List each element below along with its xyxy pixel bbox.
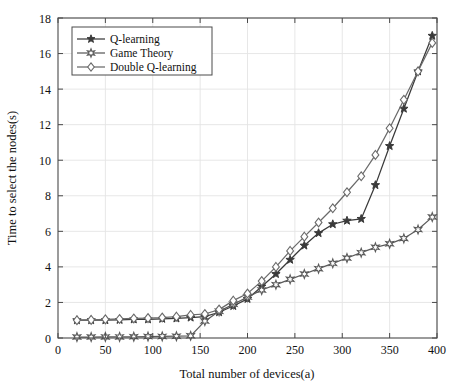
y-tick-label: 12: [39, 118, 51, 132]
x-tick-label: 250: [286, 343, 304, 357]
legend-label-1: Game Theory: [110, 47, 174, 60]
chart-figure: 050100150200250300350400024681012141618 …: [0, 0, 460, 388]
chart-legend: Q-learningGame TheoryDouble Q-learning: [72, 27, 212, 75]
x-axis-label: Total number of devices(a): [180, 367, 315, 381]
x-tick-label: 350: [381, 343, 399, 357]
legend-label-0: Q-learning: [110, 33, 160, 46]
x-tick-label: 400: [428, 343, 446, 357]
x-tick-label: 50: [99, 343, 111, 357]
x-tick-label: 300: [333, 343, 351, 357]
y-axis-label: Time to select the nodes(s): [5, 111, 19, 245]
y-tick-label: 10: [39, 154, 51, 168]
y-tick-label: 0: [45, 332, 51, 346]
y-tick-label: 18: [39, 12, 51, 26]
chart-svg: 050100150200250300350400024681012141618 …: [0, 0, 460, 388]
y-tick-label: 14: [39, 83, 51, 97]
y-tick-label: 2: [45, 296, 51, 310]
x-tick-label: 100: [144, 343, 162, 357]
legend-label-2: Double Q-learning: [110, 61, 197, 74]
x-tick-label: 0: [55, 343, 61, 357]
y-tick-label: 4: [45, 260, 51, 274]
x-tick-label: 150: [191, 343, 209, 357]
y-tick-label: 8: [45, 189, 51, 203]
y-tick-label: 16: [39, 47, 51, 61]
x-tick-label: 200: [239, 343, 257, 357]
y-tick-label: 6: [45, 225, 51, 239]
